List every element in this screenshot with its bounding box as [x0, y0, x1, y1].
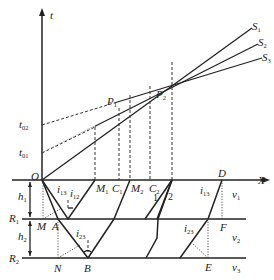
- s1-label: S1: [252, 20, 261, 33]
- v1-label: v1: [232, 188, 240, 201]
- v3-label: v3: [232, 261, 240, 274]
- t01-label: t01: [19, 146, 29, 159]
- d-label: D: [217, 167, 226, 179]
- a-label: A: [51, 220, 59, 232]
- e-label: E: [204, 261, 212, 273]
- f-label: F: [219, 221, 227, 233]
- m-label: M: [36, 220, 47, 232]
- m2-label: M2: [130, 182, 143, 195]
- traveltime-curves: S1 S2 S3: [42, 20, 271, 180]
- origin-label: O: [31, 170, 39, 182]
- t02-label: t02: [19, 118, 29, 131]
- v2-label: v2: [232, 231, 240, 244]
- t-axis-arrow-icon: [39, 8, 45, 16]
- i23b-label: i23: [184, 222, 194, 235]
- angle-labels: i13 i12 i23 i13 i23 M A N B F E v1 v2 v3: [36, 183, 240, 274]
- c1-label: C1: [112, 182, 123, 195]
- i13a-label: i13: [57, 183, 67, 196]
- i23a-label: i23: [76, 227, 86, 240]
- curve-s1: [42, 28, 252, 180]
- extrapolations: t02 t01: [19, 103, 114, 159]
- p1-label: P1: [106, 95, 117, 108]
- s2-label: S2: [258, 36, 267, 49]
- r2-label: R2: [8, 252, 19, 265]
- refraction-diagram: t X O R1 R2 h1 h2 S1 S2 S3 t02: [0, 0, 274, 280]
- m1-label: M1: [95, 182, 108, 195]
- i12-label: i12: [70, 187, 80, 200]
- s3-label: S3: [262, 51, 271, 64]
- n-label: N: [53, 262, 62, 274]
- ray-2-label: 2: [168, 191, 173, 202]
- b-label: B: [84, 262, 91, 274]
- p2-label: P2: [155, 88, 166, 101]
- x-axis-label: X: [257, 174, 266, 186]
- t-axis-label: t: [50, 9, 54, 21]
- axes: t X O: [12, 8, 270, 186]
- h1-label: h1: [18, 190, 27, 203]
- ray-1-label: 1: [153, 192, 158, 203]
- r1-label: R1: [8, 212, 19, 225]
- i13b-label: i13: [200, 184, 210, 197]
- h2-label: h2: [18, 230, 27, 243]
